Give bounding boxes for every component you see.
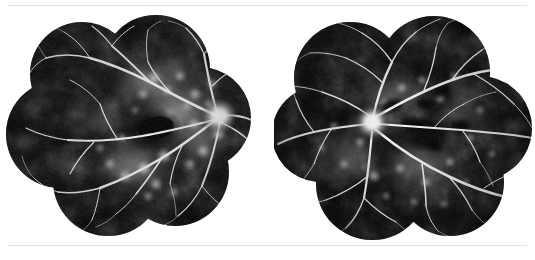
figure-panel — [0, 0, 535, 260]
angiogram-left-montage — [4, 6, 266, 245]
figure-bottom-divider — [8, 245, 527, 246]
fluorescein-angiogram-left-eye — [4, 6, 266, 245]
fluorescein-angiogram-right-eye — [274, 6, 535, 245]
figure-image-row — [0, 6, 535, 245]
angiogram-right-montage — [274, 6, 535, 245]
angiogram-left-canvas — [4, 6, 266, 245]
peripheral-vignette — [4, 6, 266, 245]
angiogram-right-canvas — [274, 6, 535, 245]
peripheral-vignette — [274, 6, 535, 245]
